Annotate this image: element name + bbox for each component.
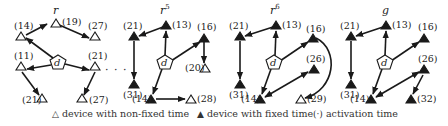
panel-title-sup: 6	[275, 3, 279, 11]
activation-time: (29)	[307, 94, 327, 104]
activation-time: (16)	[306, 24, 326, 34]
legend-fixed-text: device with fixed time	[207, 108, 313, 119]
device-nonfixed-icon	[186, 95, 196, 103]
device-fixed-icon	[309, 65, 319, 73]
activation-time: (16)	[197, 22, 217, 32]
device-nonfixed-icon	[51, 19, 61, 27]
device-nonfixed-icon	[16, 62, 26, 70]
device-fixed-icon	[271, 21, 281, 29]
panel-title: r6	[270, 3, 280, 17]
edge	[22, 72, 39, 95]
edge	[385, 31, 386, 56]
activation-time: (13)	[172, 20, 192, 30]
edge-bidirectional	[265, 72, 308, 97]
legend-activation-text: activation time	[326, 108, 398, 119]
device-fixed-icon	[381, 21, 391, 29]
panel-title: r	[53, 3, 58, 17]
panel-title: g	[382, 3, 389, 17]
device-nonfixed-icon	[90, 62, 100, 70]
legend-nonfixed: △device with non-fixed time	[52, 108, 189, 119]
device-fixed-icon	[235, 80, 245, 88]
edge	[27, 65, 51, 69]
activation-time: (32)	[417, 94, 437, 104]
depot-label: d	[54, 58, 60, 68]
triangle-outline-icon: △	[52, 109, 59, 119]
edge	[171, 42, 200, 61]
triangle-filled-icon: ▲	[197, 109, 204, 119]
activation-time: (26)	[418, 54, 438, 64]
activation-time: (28)	[197, 94, 217, 104]
edge	[139, 27, 163, 36]
edge	[245, 27, 273, 36]
edge	[165, 31, 166, 56]
parentheses-dot-icon: (·)	[313, 109, 323, 119]
depot-label: d	[270, 58, 276, 68]
depot-label: d	[161, 58, 167, 68]
activation-time: (27)	[89, 95, 109, 105]
activation-time: (26)	[306, 54, 326, 64]
device-fixed-icon	[346, 32, 356, 40]
activation-time: (21)	[340, 21, 360, 31]
device-fixed-icon	[129, 32, 139, 40]
edge	[153, 69, 162, 94]
device-fixed-icon	[419, 34, 429, 42]
panel-title-sup: 5	[165, 3, 169, 11]
device-nonfixed-icon	[16, 32, 26, 40]
activation-time: (21)	[22, 95, 42, 105]
edge	[84, 72, 95, 95]
activation-time: (13)	[282, 20, 302, 30]
device-fixed-icon	[346, 80, 356, 88]
device-nonfixed-icon	[296, 95, 306, 103]
activation-time: (14)	[132, 94, 152, 104]
activation-time: (16)	[418, 22, 438, 32]
device-fixed-icon	[406, 95, 416, 103]
edge	[280, 42, 308, 61]
device-fixed-icon	[235, 32, 245, 40]
activation-time: (20)	[185, 63, 205, 73]
activation-time: (27)	[88, 21, 108, 31]
edge	[65, 64, 89, 70]
edge	[391, 42, 419, 61]
legend: △device with non-fixed time ▲device with…	[0, 108, 448, 122]
activation-time: (21)	[88, 51, 108, 61]
edge	[373, 69, 382, 94]
activation-time: (14)	[350, 94, 370, 104]
device-fixed-icon	[161, 21, 171, 29]
ellipsis: · · ·	[105, 64, 127, 77]
panel-title-text: r	[53, 4, 58, 17]
legend-activation: (·)activation time	[313, 108, 398, 119]
activation-time: (13)	[392, 20, 412, 30]
panel-title: r5	[160, 3, 170, 17]
edge	[413, 75, 423, 94]
device-fixed-icon	[199, 34, 209, 42]
activation-time: (21)	[123, 21, 143, 31]
legend-fixed: ▲device with fixed time	[197, 108, 313, 119]
activation-time: (11)	[14, 51, 34, 61]
activation-time: (21)	[229, 21, 249, 31]
device-fixed-icon	[129, 80, 139, 88]
panel-title-text: g	[382, 4, 389, 17]
edge-curved	[305, 38, 331, 98]
activation-time: (14)	[14, 21, 34, 31]
legend-nonfixed-text: device with non-fixed time	[62, 108, 189, 119]
device-fixed-icon	[419, 65, 429, 73]
edge	[262, 69, 271, 94]
activation-time: (19)	[62, 17, 82, 27]
activation-time: (14)	[241, 94, 261, 104]
depot-label: d	[381, 58, 387, 68]
device-nonfixed-icon	[90, 32, 100, 40]
device-nonfixed-icon	[77, 94, 87, 102]
edge	[356, 27, 383, 36]
edge	[275, 31, 276, 56]
